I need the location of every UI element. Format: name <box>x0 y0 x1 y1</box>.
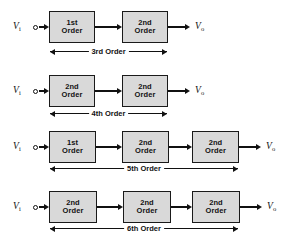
row-6th-order-block-3[interactable]: 2ndOrder <box>192 191 240 223</box>
row-4th-order-span-arrow-right <box>162 111 167 117</box>
row-3rd-order-block-2[interactable]: 2ndOrder <box>122 11 168 43</box>
row-3rd-order-output-label: Vo <box>195 22 204 32</box>
row-4th-order-input-label-base: V <box>13 85 19 95</box>
row-5th-order-input-label-subscript: i <box>19 145 21 152</box>
row-5th-order-block-2-label: Order <box>135 147 156 155</box>
row-6th-order-span-label: 6th Order <box>124 225 164 233</box>
row-3rd-order-link-arrow-1-line <box>95 26 118 27</box>
row-3rd-order-output-label-subscript: o <box>201 25 204 32</box>
row-3rd-order-span-arrow-left <box>50 49 55 55</box>
row-5th-order-span-arrow-left <box>50 166 55 172</box>
row-4th-order-output-label-subscript: o <box>201 89 204 96</box>
row-6th-order-link-arrow-2-line <box>171 206 188 207</box>
row-6th-order-output-label-base: V <box>267 201 273 211</box>
row-5th-order-output-label-base: V <box>266 141 272 151</box>
row-5th-order-input-label-base: V <box>13 141 19 151</box>
row-5th-order-block-1-label: Order <box>62 147 83 155</box>
row-5th-order-link-arrow-2-line <box>169 146 188 147</box>
row-4th-order-input-label: Vi <box>13 86 21 96</box>
row-4th-order-input-label-subscript: i <box>19 89 21 96</box>
row-4th-order-output-label-base: V <box>195 85 201 95</box>
row-4th-order-span-arrow-left <box>50 111 55 117</box>
row-4th-order-block-1-label: Order <box>62 91 83 99</box>
row-4th-order-block-2[interactable]: 2ndOrder <box>122 75 168 107</box>
row-6th-order-block-2-label: Order <box>137 207 158 215</box>
row-3rd-order-input-label-subscript: i <box>19 25 21 32</box>
row-6th-order-output-label: Vo <box>267 202 276 212</box>
row-4th-order-block-1[interactable]: 2ndOrder <box>49 75 95 107</box>
row-5th-order-output-label-subscript: o <box>272 145 275 152</box>
row-6th-order-input-terminal <box>33 205 38 210</box>
row-5th-order-span-label: 5th Order <box>124 165 164 173</box>
row-6th-order-span-arrow-right <box>233 226 238 232</box>
row-5th-order-block-1[interactable]: 1stOrder <box>49 131 96 163</box>
row-5th-order-input-terminal <box>33 145 38 150</box>
row-4th-order-output-label: Vo <box>195 86 204 96</box>
row-3rd-order-output-label-base: V <box>195 21 201 31</box>
row-3rd-order-input-label: Vi <box>13 22 21 32</box>
row-4th-order-input-terminal <box>33 89 38 94</box>
row-5th-order-span-arrow-right <box>233 166 238 172</box>
row-6th-order-span-arrow-left <box>50 226 55 232</box>
row-6th-order-output-arrow-arrowhead <box>257 204 262 210</box>
row-4th-order-block-2-label: Order <box>135 91 156 99</box>
row-5th-order-block-3[interactable]: 2ndOrder <box>192 131 239 163</box>
row-5th-order-block-3-label: Order <box>205 147 226 155</box>
row-6th-order-input-label-subscript: i <box>19 205 21 212</box>
row-5th-order-output-arrow-line <box>239 146 257 147</box>
filter-cascade-diagram: Vi1stOrder2ndOrderVo3rd OrderVi2ndOrder2… <box>0 0 285 241</box>
row-5th-order-input-label: Vi <box>13 142 21 152</box>
row-3rd-order-block-2-label: Order <box>135 27 156 35</box>
row-3rd-order-span-label: 3rd Order <box>88 48 128 56</box>
row-4th-order-output-arrow-arrowhead <box>185 88 190 94</box>
row-3rd-order-output-arrow-line <box>168 26 186 27</box>
row-3rd-order-output-arrow-arrowhead <box>185 24 190 30</box>
row-3rd-order-block-1[interactable]: 1stOrder <box>49 11 95 43</box>
row-6th-order-block-2[interactable]: 2ndOrder <box>123 191 171 223</box>
row-6th-order-output-arrow-line <box>240 206 258 207</box>
row-3rd-order-input-label-base: V <box>13 21 19 31</box>
row-5th-order-output-arrow-arrowhead <box>256 144 261 150</box>
row-6th-order-link-arrow-1-line <box>97 206 119 207</box>
row-3rd-order-block-1-label: Order <box>62 27 83 35</box>
row-6th-order-input-label-base: V <box>13 201 19 211</box>
row-5th-order-block-2[interactable]: 2ndOrder <box>122 131 169 163</box>
row-4th-order-link-arrow-1-line <box>95 90 118 91</box>
row-3rd-order-span-arrow-right <box>162 49 167 55</box>
row-4th-order-output-arrow-line <box>168 90 186 91</box>
row-3rd-order-input-terminal <box>33 25 38 30</box>
row-5th-order-output-label: Vo <box>266 142 275 152</box>
row-4th-order-span-label: 4th Order <box>89 110 129 118</box>
row-5th-order-link-arrow-1-line <box>96 146 118 147</box>
row-6th-order-input-label: Vi <box>13 202 21 212</box>
row-6th-order-block-3-label: Order <box>206 207 227 215</box>
row-6th-order-block-1[interactable]: 2ndOrder <box>49 191 97 223</box>
row-6th-order-output-label-subscript: o <box>273 205 276 212</box>
row-6th-order-block-1-label: Order <box>63 207 84 215</box>
